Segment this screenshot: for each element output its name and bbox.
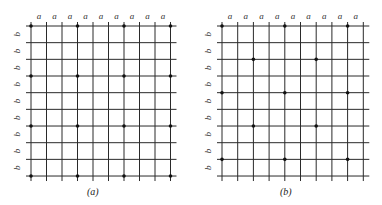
lattice-figure: aaaaaaaaabbbbbbbbb aaaaaaaaabbbbbbbbb (a…	[0, 0, 382, 205]
col-spacing-label: a	[145, 11, 150, 21]
lattice-point-icon	[283, 91, 287, 95]
col-spacing-label: a	[99, 11, 104, 21]
col-spacing-label: a	[291, 11, 296, 21]
row-spacing-label: b	[12, 48, 22, 53]
row-spacing-label: b	[12, 32, 22, 37]
col-spacing-label: a	[259, 11, 264, 21]
row-spacing-label: b	[12, 132, 22, 137]
row-spacing-label: b	[12, 165, 22, 170]
col-spacing-label: a	[114, 11, 119, 21]
row-spacing-label: b	[203, 115, 213, 120]
caption-b: (b)	[280, 186, 292, 198]
col-spacing-label: a	[68, 11, 73, 21]
lattice-point-icon	[252, 124, 256, 128]
lattice-point-icon	[76, 74, 80, 78]
lattice-point-icon	[122, 174, 126, 178]
col-spacing-label: a	[244, 11, 249, 21]
lattice-point-icon	[314, 58, 318, 62]
row-spacing-label: b	[203, 98, 213, 103]
lattice-point-icon	[76, 24, 80, 28]
row-spacing-label: b	[12, 82, 22, 87]
row-spacing-label: b	[12, 115, 22, 120]
col-spacing-label: a	[37, 11, 42, 21]
row-spacing-label: b	[12, 148, 22, 153]
row-spacing-label: b	[203, 165, 213, 170]
col-spacing-label: a	[322, 11, 327, 21]
lattice-point-icon	[122, 74, 126, 78]
lattice-point-icon	[220, 24, 224, 28]
row-spacing-label: b	[203, 32, 213, 37]
col-spacing-label: a	[130, 11, 135, 21]
row-spacing-label: b	[203, 48, 213, 53]
lattice-point-icon	[169, 24, 173, 28]
caption-a: (a)	[87, 186, 99, 198]
lattice-point-icon	[29, 74, 33, 78]
lattice-point-icon	[29, 174, 33, 178]
lattice-point-icon	[76, 174, 80, 178]
col-spacing-label: a	[306, 11, 311, 21]
col-spacing-label: a	[338, 11, 343, 21]
panel-a-square-lattice: aaaaaaaaabbbbbbbbb	[12, 11, 176, 181]
lattice-point-icon	[169, 124, 173, 128]
lattice-point-icon	[252, 58, 256, 62]
col-spacing-label: a	[161, 11, 166, 21]
row-spacing-label: b	[203, 148, 213, 153]
col-spacing-label: a	[275, 11, 280, 21]
col-spacing-label: a	[83, 11, 88, 21]
row-spacing-label: b	[12, 65, 22, 70]
row-spacing-label: b	[203, 82, 213, 87]
panel-b-centered-lattice: aaaaaaaaabbbbbbbbb	[203, 11, 369, 181]
row-spacing-label: b	[203, 65, 213, 70]
row-spacing-label: b	[203, 132, 213, 137]
col-spacing-label: a	[52, 11, 57, 21]
lattice-point-icon	[29, 124, 33, 128]
lattice-point-icon	[122, 24, 126, 28]
lattice-point-icon	[169, 174, 173, 178]
lattice-point-icon	[29, 24, 33, 28]
lattice-point-icon	[314, 124, 318, 128]
lattice-point-icon	[220, 158, 224, 162]
row-spacing-label: b	[12, 98, 22, 103]
col-spacing-label: a	[353, 11, 358, 21]
lattice-point-icon	[346, 24, 350, 28]
lattice-point-icon	[122, 124, 126, 128]
lattice-point-icon	[220, 91, 224, 95]
lattice-point-icon	[283, 24, 287, 28]
lattice-point-icon	[76, 124, 80, 128]
lattice-point-icon	[169, 74, 173, 78]
lattice-point-icon	[346, 158, 350, 162]
lattice-point-icon	[346, 91, 350, 95]
col-spacing-label: a	[228, 11, 233, 21]
lattice-point-icon	[283, 158, 287, 162]
